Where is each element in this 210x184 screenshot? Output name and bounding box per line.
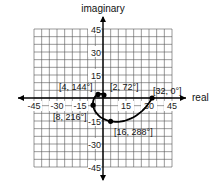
svg-text:-30: -30 [50,101,63,111]
point-label-16-288: [16, 288°] [114,127,153,137]
point-label-8-216: [8, 216°] [53,112,87,122]
svg-text:15: 15 [91,71,101,81]
svg-text:-30: -30 [88,140,101,150]
data-point [95,92,100,97]
svg-text:-45: -45 [27,101,40,111]
svg-text:15: 15 [121,101,131,111]
axes [18,16,186,181]
data-point [101,92,106,97]
data-point [108,119,113,124]
point-label-4-144: [4, 144°] [59,82,93,92]
svg-text:45: 45 [91,25,101,35]
svg-text:30: 30 [91,48,101,58]
complex-plane-chart: -45-30-15153045453015-15-30-45 imaginary… [0,0,210,184]
svg-text:-15: -15 [73,101,86,111]
point-label-2-72: [2, 72°] [110,82,139,92]
x-axis-label: real [192,92,209,103]
svg-text:45: 45 [167,101,177,111]
point-label-32-0: [32, 0°] [153,86,182,96]
data-point [90,103,95,108]
data-point [149,95,154,100]
svg-text:-15: -15 [88,117,101,127]
y-axis-label: imaginary [81,3,124,14]
svg-text:-45: -45 [88,163,101,173]
